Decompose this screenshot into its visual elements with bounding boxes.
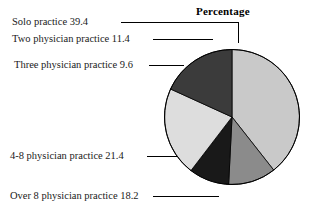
pie-slice-group	[165, 50, 300, 185]
slice-label-two-physician-practice: Two physician practice 11.4	[12, 34, 130, 45]
pie-chart-figure: Percentage Solo practice 39.4 Two physic…	[0, 0, 329, 222]
chart-title: Percentage	[196, 5, 250, 17]
slice-label-three-physician-practice: Three physician practice 9.6	[14, 60, 133, 71]
leader-line-solo-practice-drop	[238, 22, 239, 43]
leader-line-two-physician	[153, 39, 213, 40]
pie-svg	[164, 49, 300, 185]
slice-label-4-8-physician-practice: 4-8 physician practice 21.4	[10, 151, 124, 162]
slice-label-over-8-physician-practice: Over 8 physician practice 18.2	[10, 191, 139, 202]
slice-label-solo-practice: Solo practice 39.4	[12, 17, 88, 28]
pie-graphic	[164, 49, 300, 185]
leader-line-solo-practice	[121, 22, 238, 23]
leader-line-over-8-physician	[153, 196, 219, 197]
